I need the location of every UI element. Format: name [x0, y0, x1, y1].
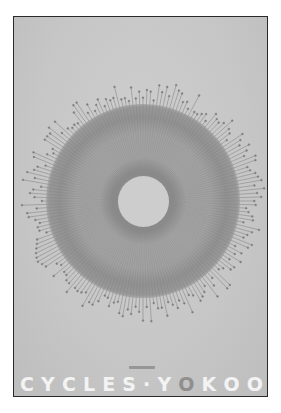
title-letter: C	[20, 373, 34, 395]
radial-burst-artwork	[14, 17, 267, 396]
poster: CYCLES·YOKOO	[13, 16, 268, 397]
title-letter: C	[62, 373, 76, 395]
title-letter: E	[102, 373, 115, 395]
title-letter: O	[223, 373, 239, 395]
title-letter: Y	[41, 373, 55, 395]
center-hole	[118, 176, 169, 227]
poster-title: CYCLES·YOKOO	[20, 373, 263, 395]
title-letter: L	[83, 373, 95, 395]
small-caption-mark	[129, 366, 155, 369]
title-letter: O	[178, 373, 194, 395]
title-letter: Y	[157, 373, 171, 395]
title-letter: S	[122, 373, 136, 395]
title-letter: O	[247, 373, 263, 395]
title-letter: K	[202, 373, 217, 395]
title-letter: ·	[143, 373, 150, 395]
